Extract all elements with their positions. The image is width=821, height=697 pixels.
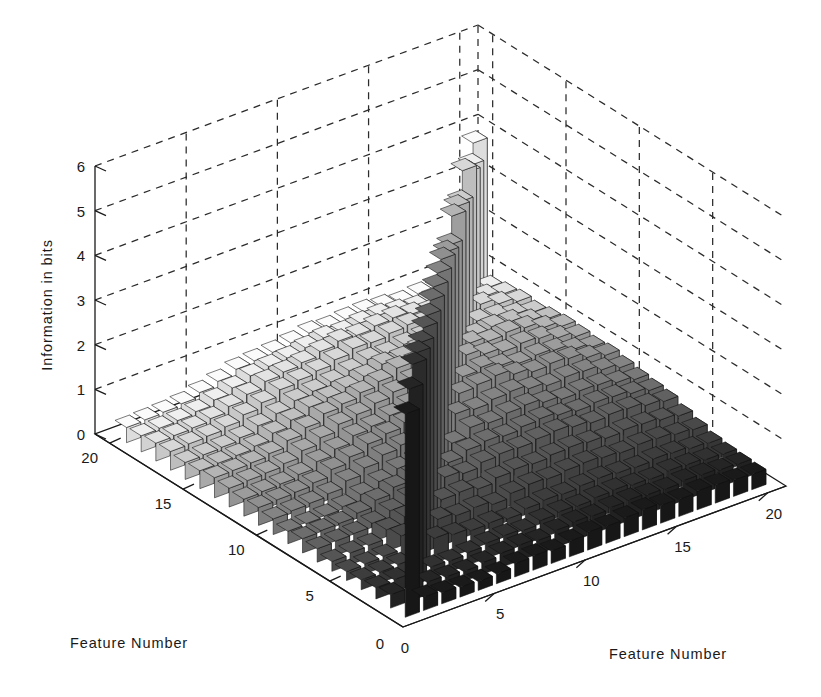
right-axis-title: Feature Number — [609, 646, 727, 662]
z-tick-label: 4 — [77, 247, 85, 264]
left-tick-label: 0 — [376, 635, 384, 652]
bar3-plot: 01234560510152005101520Information in bi… — [0, 0, 821, 697]
right-tick-label: 0 — [401, 639, 409, 656]
right-tick-label: 10 — [583, 572, 600, 589]
z-axis-title: Information in bits — [39, 239, 55, 371]
z-tick-label: 1 — [77, 381, 85, 398]
left-axis-title: Feature Number — [70, 635, 188, 651]
left-tick-label: 20 — [81, 449, 98, 466]
left-tick-label: 5 — [305, 587, 313, 604]
right-tick-label: 20 — [765, 505, 782, 522]
z-tick-label: 2 — [77, 337, 85, 354]
right-tick-label: 5 — [496, 605, 504, 622]
z-tick-label: 5 — [77, 203, 85, 220]
left-tick-label: 15 — [155, 495, 172, 512]
bar-face — [405, 409, 419, 617]
z-tick-label: 6 — [77, 158, 85, 175]
z-tick-label: 3 — [77, 292, 85, 309]
right-tick-label: 15 — [674, 538, 691, 555]
left-tick-label: 10 — [228, 541, 245, 558]
z-tick-label: 0 — [77, 426, 85, 443]
figure-panel: 01234560510152005101520Information in bi… — [0, 0, 821, 697]
